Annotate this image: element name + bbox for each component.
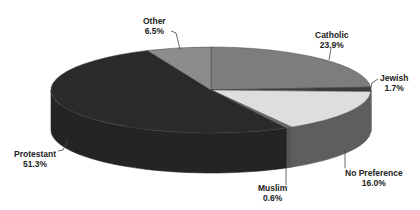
label-other-pct: 6.5% bbox=[143, 26, 166, 36]
label-other: Other 6.5% bbox=[143, 16, 166, 36]
label-catholic-name: Catholic bbox=[315, 30, 349, 40]
label-no-preference-name: No Preference bbox=[345, 168, 403, 178]
label-jewish-pct: 1.7% bbox=[380, 83, 408, 93]
label-catholic: Catholic 23.9% bbox=[315, 30, 349, 50]
label-no-preference: No Preference 16.0% bbox=[345, 168, 403, 188]
slice-side-muslim bbox=[286, 127, 291, 168]
label-protestant-name: Protestant bbox=[14, 149, 56, 159]
label-jewish-name: Jewish bbox=[380, 73, 408, 83]
label-muslim: Muslim 0.6% bbox=[258, 183, 287, 203]
label-muslim-pct: 0.6% bbox=[258, 193, 287, 203]
label-protestant-pct: 51.3% bbox=[14, 159, 56, 169]
label-muslim-name: Muslim bbox=[258, 183, 287, 193]
label-catholic-pct: 23.9% bbox=[315, 40, 349, 50]
label-other-name: Other bbox=[143, 16, 166, 26]
label-jewish: Jewish 1.7% bbox=[380, 73, 408, 93]
leader-line bbox=[171, 31, 180, 49]
label-protestant: Protestant 51.3% bbox=[14, 149, 56, 169]
slice-catholic bbox=[211, 47, 371, 90]
label-no-preference-pct: 16.0% bbox=[345, 178, 403, 188]
